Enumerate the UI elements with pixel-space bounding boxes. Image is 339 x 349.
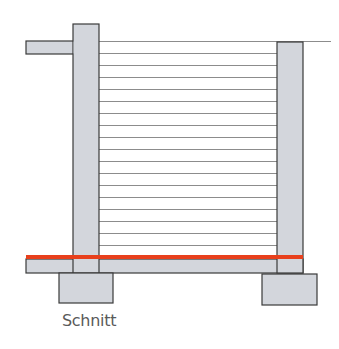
caption-label: Schnitt [62, 311, 116, 330]
membrane-line [26, 255, 303, 259]
floor-slab [26, 259, 303, 273]
section-drawing [0, 0, 339, 349]
left-wall [73, 24, 99, 273]
right-footing [262, 274, 317, 305]
left-ledge [26, 41, 75, 54]
ledge-joint [74, 42, 76, 54]
left-footing [59, 273, 113, 303]
right-wall [277, 42, 303, 273]
